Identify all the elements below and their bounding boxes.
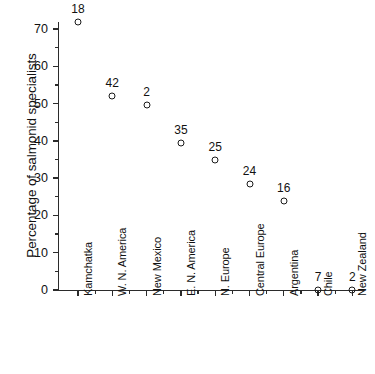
y-tick-label: 70: [20, 22, 48, 36]
data-point-label: 25: [209, 140, 222, 154]
y-tick-label: 10: [20, 246, 48, 260]
x-tick-minor: [163, 291, 164, 294]
data-point-label: 42: [106, 76, 119, 90]
y-tick-major: [53, 28, 59, 29]
x-category-label: Chile: [322, 271, 334, 296]
x-category-label: Central Europe: [254, 223, 266, 296]
y-tick-major: [53, 177, 59, 178]
data-point: [315, 287, 322, 294]
x-category-label: W. N. America: [116, 228, 128, 296]
y-tick-minor: [55, 271, 59, 272]
x-tick-major: [249, 291, 250, 296]
y-tick-label: 20: [20, 208, 48, 222]
data-point-label: 16: [277, 181, 290, 195]
data-point-label: 24: [243, 164, 256, 178]
x-tick-major: [146, 291, 147, 296]
data-point: [280, 197, 287, 204]
x-category-label: E. N. America: [185, 230, 197, 296]
x-tick-minor: [266, 291, 267, 294]
x-tick-minor: [232, 291, 233, 294]
data-point-label: 7: [315, 270, 322, 284]
data-point-label: 2: [143, 85, 150, 99]
y-tick-minor: [55, 122, 59, 123]
data-point: [246, 180, 253, 187]
y-axis-line: [58, 22, 59, 291]
x-tick-minor: [335, 291, 336, 294]
y-tick-label: 0: [20, 283, 48, 297]
y-tick-minor: [55, 233, 59, 234]
y-tick-label: 30: [20, 171, 48, 185]
y-tick-minor: [55, 47, 59, 48]
y-tick-minor: [55, 84, 59, 85]
data-point: [143, 102, 150, 109]
data-point: [109, 93, 116, 100]
x-tick-major: [215, 291, 216, 296]
y-tick-major: [53, 140, 59, 141]
y-tick-minor: [55, 196, 59, 197]
x-tick-minor: [300, 291, 301, 294]
x-category-label: New Mexico: [151, 237, 163, 296]
x-tick-minor: [95, 291, 96, 294]
x-tick-major: [180, 291, 181, 296]
data-point: [212, 156, 219, 163]
y-tick-major: [53, 289, 59, 290]
scatter-chart: Percentage of salmonid specialists 01020…: [0, 0, 375, 374]
y-tick-major: [53, 103, 59, 104]
x-category-label: New Zealand: [356, 232, 368, 296]
data-point-label: 35: [174, 123, 187, 137]
y-tick-major: [53, 215, 59, 216]
data-point-label: 2: [349, 270, 356, 284]
x-category-label: Argentina: [288, 250, 300, 296]
y-tick-label: 60: [20, 59, 48, 73]
y-tick-label: 40: [20, 134, 48, 148]
data-point: [349, 287, 356, 294]
x-tick-minor: [129, 291, 130, 294]
x-tick-minor: [197, 291, 198, 294]
data-point: [177, 139, 184, 146]
data-point: [75, 18, 82, 25]
x-category-label: N. Europe: [219, 247, 231, 296]
x-tick-major: [77, 291, 78, 296]
y-tick-major: [53, 252, 59, 253]
data-point-label: 18: [71, 2, 84, 16]
y-tick-major: [53, 66, 59, 67]
x-tick-major: [112, 291, 113, 296]
x-tick-major: [283, 291, 284, 296]
y-tick-minor: [55, 159, 59, 160]
y-tick-label: 50: [20, 97, 48, 111]
x-category-label: Kamchatka: [82, 242, 94, 296]
